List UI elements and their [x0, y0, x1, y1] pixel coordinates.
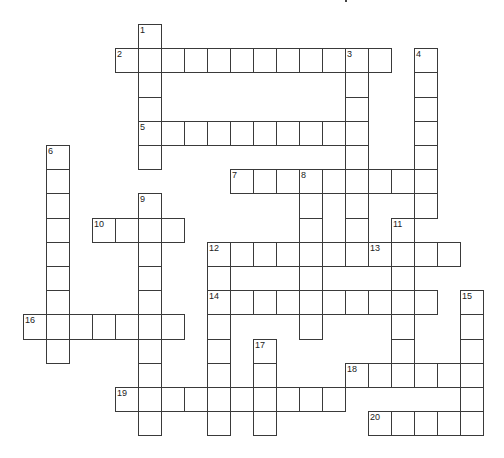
letter-input[interactable] [415, 49, 437, 72]
crossword-cell[interactable] [299, 121, 323, 146]
crossword-cell[interactable] [299, 193, 323, 219]
letter-input[interactable] [231, 291, 253, 314]
letter-input[interactable] [162, 49, 184, 72]
crossword-cell[interactable] [345, 290, 369, 315]
letter-input[interactable] [139, 98, 161, 121]
letter-input[interactable] [254, 291, 276, 314]
crossword-cell[interactable]: 3 [345, 48, 369, 73]
letter-input[interactable] [346, 243, 368, 266]
letter-input[interactable] [277, 243, 299, 266]
letter-input[interactable] [392, 315, 414, 339]
crossword-cell[interactable] [276, 387, 300, 412]
letter-input[interactable] [369, 364, 391, 387]
crossword-cell[interactable] [414, 97, 438, 122]
letter-input[interactable] [277, 49, 299, 72]
letter-input[interactable] [323, 388, 345, 411]
crossword-cell[interactable] [391, 169, 415, 194]
letter-input[interactable] [323, 122, 345, 145]
crossword-cell[interactable] [46, 314, 70, 340]
crossword-cell[interactable] [322, 121, 346, 146]
letter-input[interactable] [369, 49, 391, 72]
letter-input[interactable] [139, 122, 161, 145]
letter-input[interactable] [254, 170, 276, 193]
crossword-cell[interactable] [391, 290, 415, 315]
crossword-cell[interactable]: 20 [368, 411, 392, 436]
letter-input[interactable] [346, 49, 368, 72]
letter-input[interactable] [47, 146, 69, 169]
crossword-cell[interactable] [138, 218, 162, 243]
letter-input[interactable] [346, 170, 368, 193]
letter-input[interactable] [300, 170, 322, 193]
letter-input[interactable] [300, 219, 322, 242]
crossword-cell[interactable] [138, 48, 162, 73]
letter-input[interactable] [208, 315, 230, 339]
letter-input[interactable] [139, 291, 161, 314]
letter-input[interactable] [139, 219, 161, 242]
crossword-cell[interactable] [299, 387, 323, 412]
crossword-cell[interactable] [161, 387, 185, 412]
letter-input[interactable] [47, 194, 69, 218]
crossword-cell[interactable] [253, 121, 277, 146]
letter-input[interactable] [346, 219, 368, 242]
crossword-cell[interactable] [276, 169, 300, 194]
crossword-cell[interactable]: 6 [46, 145, 70, 170]
crossword-cell[interactable] [345, 218, 369, 243]
letter-input[interactable] [346, 98, 368, 121]
crossword-cell[interactable] [253, 387, 277, 412]
crossword-cell[interactable] [276, 242, 300, 267]
crossword-cell[interactable] [414, 363, 438, 388]
crossword-cell[interactable] [115, 218, 139, 243]
crossword-cell[interactable] [253, 242, 277, 267]
crossword-cell[interactable] [46, 290, 70, 315]
crossword-cell[interactable] [138, 314, 162, 340]
crossword-cell[interactable] [207, 266, 231, 291]
letter-input[interactable] [369, 170, 391, 193]
letter-input[interactable] [208, 340, 230, 363]
crossword-cell[interactable] [460, 387, 484, 412]
crossword-cell[interactable]: 8 [299, 169, 323, 194]
crossword-cell[interactable]: 4 [414, 48, 438, 73]
letter-input[interactable] [300, 267, 322, 290]
crossword-cell[interactable] [460, 314, 484, 340]
crossword-cell[interactable] [414, 290, 438, 315]
letter-input[interactable] [323, 291, 345, 314]
crossword-cell[interactable] [345, 97, 369, 122]
letter-input[interactable] [300, 315, 322, 339]
crossword-cell[interactable] [276, 121, 300, 146]
letter-input[interactable] [392, 170, 414, 193]
crossword-cell[interactable] [391, 411, 415, 436]
crossword-cell[interactable] [230, 290, 254, 315]
letter-input[interactable] [162, 388, 184, 411]
letter-input[interactable] [254, 49, 276, 72]
crossword-cell[interactable] [207, 363, 231, 388]
letter-input[interactable] [300, 122, 322, 145]
letter-input[interactable] [415, 243, 437, 266]
letter-input[interactable] [369, 291, 391, 314]
letter-input[interactable] [254, 340, 276, 363]
letter-input[interactable] [461, 291, 483, 314]
crossword-cell[interactable] [460, 411, 484, 436]
crossword-cell[interactable] [460, 363, 484, 388]
letter-input[interactable] [47, 291, 69, 314]
crossword-cell[interactable] [207, 48, 231, 73]
crossword-cell[interactable] [230, 387, 254, 412]
letter-input[interactable] [70, 315, 92, 339]
letter-input[interactable] [300, 243, 322, 266]
crossword-cell[interactable] [161, 218, 185, 243]
letter-input[interactable] [139, 243, 161, 266]
letter-input[interactable] [139, 315, 161, 339]
letter-input[interactable] [346, 291, 368, 314]
crossword-cell[interactable]: 1 [138, 24, 162, 49]
crossword-cell[interactable] [138, 145, 162, 170]
letter-input[interactable] [346, 364, 368, 387]
letter-input[interactable] [231, 49, 253, 72]
letter-input[interactable] [254, 412, 276, 435]
letter-input[interactable] [323, 243, 345, 266]
letter-input[interactable] [185, 388, 207, 411]
crossword-cell[interactable] [299, 314, 323, 340]
crossword-cell[interactable]: 5 [138, 121, 162, 146]
letter-input[interactable] [139, 412, 161, 435]
letter-input[interactable] [346, 73, 368, 97]
crossword-cell[interactable] [368, 290, 392, 315]
crossword-cell[interactable] [184, 387, 208, 412]
